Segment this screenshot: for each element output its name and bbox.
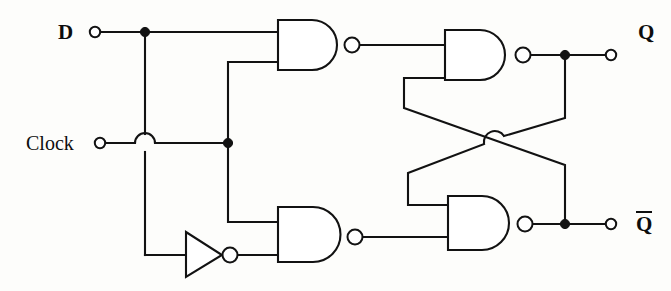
junction-clock-branch xyxy=(223,138,232,147)
terminal-qbar-output xyxy=(606,219,616,229)
junction-d-branch xyxy=(140,27,149,36)
not-gate-body xyxy=(186,232,222,277)
output-label-qbar: Q xyxy=(636,211,652,235)
wire-q-feedback-upper xyxy=(504,55,565,136)
nand-gate-4-body xyxy=(448,196,509,250)
terminal-d-input xyxy=(90,27,100,37)
nand-gate-3-bubble-icon xyxy=(348,230,363,245)
output-label-qbar-text: Q xyxy=(636,211,652,235)
terminal-q-output xyxy=(606,50,616,60)
input-label-d: D xyxy=(58,22,73,43)
nand-gate-1-body xyxy=(278,20,337,70)
input-label-clock: Clock xyxy=(26,133,74,153)
nand-gate-4-bubble-icon xyxy=(518,217,533,232)
circuit-schematic xyxy=(0,0,671,291)
wire-clock-to-nand3 xyxy=(228,143,278,222)
terminal-clock-input xyxy=(95,138,105,148)
nand-gate-1-bubble-icon xyxy=(345,38,360,53)
junction-q-branch xyxy=(560,50,569,59)
nand-gate-2-body xyxy=(445,30,505,80)
nand-gate-3-body xyxy=(278,207,340,262)
output-label-q: Q xyxy=(638,22,654,43)
not-gate-bubble-icon xyxy=(223,248,238,263)
nand-gate-2-bubble-icon xyxy=(516,48,531,63)
logic-diagram-canvas: D Clock Q Q xyxy=(0,0,671,291)
wire-clock-to-nand1 xyxy=(228,62,278,143)
junction-qbar-branch xyxy=(560,219,569,228)
